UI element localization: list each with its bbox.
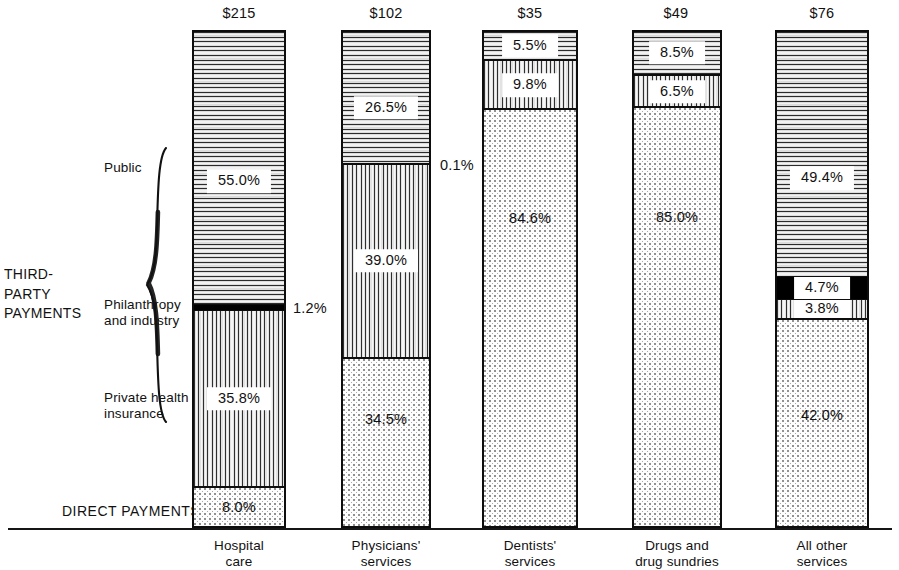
segment-value-direct: 8.0% <box>222 500 256 515</box>
segment-direct-payments: 84.6% <box>484 108 576 526</box>
segment-philanthropy: 4.7% <box>777 276 867 299</box>
segment-value-private: 39.0% <box>354 249 418 273</box>
bar-total-hospital-care: $215 <box>192 5 286 21</box>
segment-value-private: 6.5% <box>649 80 705 104</box>
segment-value-public: 49.4% <box>790 167 854 191</box>
legend-label-public: Public <box>104 160 142 176</box>
segment-value-public: 5.5% <box>502 34 558 58</box>
category-label-drugs-and-drug-sundries: Drugs and drug sundries <box>627 538 727 570</box>
segment-value-private: 3.8% <box>794 299 850 318</box>
segment-value-direct: 34.5% <box>365 412 407 427</box>
third-party-brace-icon <box>142 146 168 424</box>
category-label-dentists-services: Dentists' services <box>482 538 578 570</box>
legend-label-direct-payments: DIRECT PAYMENTS <box>62 503 200 519</box>
bar-drugs-and-drug-sundries[interactable]: 8.5% 6.5% 85.0% <box>632 30 722 528</box>
segment-value-public: 55.0% <box>207 170 271 194</box>
category-label-hospital-care: Hospital care <box>192 538 286 570</box>
segment-direct-payments: 42.0% <box>777 318 867 526</box>
segment-direct-payments: 85.0% <box>634 106 720 526</box>
segment-public: 55.0% <box>194 32 284 304</box>
segment-value-philanthropy: 4.7% <box>794 276 850 299</box>
legend-label-private-health-insurance: Private health insurance <box>104 390 189 422</box>
bar-all-other-services[interactable]: 49.4% 4.7% 3.8% 42.0% <box>775 30 869 528</box>
category-label-all-other-services: All other services <box>775 538 869 570</box>
outside-value-hospital-philanthropy: 1.2% <box>293 300 327 316</box>
segment-value-direct: 85.0% <box>656 209 698 224</box>
segment-value-direct: 84.6% <box>509 211 551 226</box>
segment-direct-payments: 8.0% <box>194 486 284 526</box>
segment-private-health-insurance: 35.8% <box>194 310 284 487</box>
segment-value-direct: 42.0% <box>801 407 843 422</box>
segment-value-public: 26.5% <box>354 96 418 120</box>
segment-private-health-insurance: 39.0% <box>343 164 429 357</box>
segment-private-health-insurance: 6.5% <box>634 74 720 106</box>
bar-total-dentists-services: $35 <box>481 5 579 21</box>
legend-label-philanthropy-and-industry: Philanthropy and industry <box>104 297 181 329</box>
segment-public: 5.5% <box>484 32 576 59</box>
bar-total-physicians-services: $102 <box>340 5 432 21</box>
segment-public: 8.5% <box>634 32 720 74</box>
segment-value-private: 9.8% <box>502 74 558 98</box>
bar-physicians-services[interactable]: 26.5% 39.0% 34.5% <box>341 30 431 528</box>
third-party-payments-group-title: THIRD- PARTY PAYMENTS <box>4 265 81 324</box>
segment-private-health-insurance: 9.8% <box>484 59 576 107</box>
segment-value-public: 8.5% <box>649 41 705 65</box>
segment-direct-payments: 34.5% <box>343 357 429 527</box>
segment-public: 26.5% <box>343 32 429 163</box>
bar-hospital-care[interactable]: 55.0% 35.8% 8.0% <box>192 30 286 528</box>
segment-private-health-insurance: 3.8% <box>777 299 867 318</box>
outside-value-physicians-philanthropy: 0.1% <box>440 157 474 173</box>
bar-dentists-services[interactable]: 5.5% 9.8% 84.6% <box>482 30 578 528</box>
category-label-physicians-services: Physicians' services <box>338 538 434 570</box>
bar-total-drugs-and-drug-sundries: $49 <box>630 5 722 21</box>
bar-total-all-other-services: $76 <box>774 5 870 21</box>
axis-baseline <box>8 528 892 530</box>
segment-public: 49.4% <box>777 32 867 276</box>
segment-value-private: 35.8% <box>207 387 271 411</box>
